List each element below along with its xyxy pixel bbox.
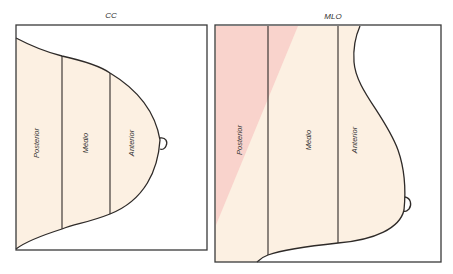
- mlo-zone-medio: Médio: [304, 130, 313, 150]
- cc-zone-posterior: Posterior: [32, 127, 41, 158]
- cc-zone-anterior: Anterior: [127, 129, 136, 157]
- cc-panel: CC Posterior Médio Anterior: [16, 11, 207, 250]
- mlo-zone-posterior: Posterior: [235, 124, 244, 155]
- mlo-title: MLO: [324, 12, 341, 21]
- cc-title: CC: [105, 11, 117, 20]
- mlo-zone-anterior: Anterior: [350, 126, 359, 154]
- breast-zones-diagram: CC Posterior Médio Anterior MLO Posterio…: [0, 0, 453, 274]
- cc-nipple-icon: [160, 138, 167, 150]
- mlo-panel: MLO Posterior Médio Anterior: [215, 12, 441, 262]
- cc-zone-medio: Médio: [81, 133, 90, 153]
